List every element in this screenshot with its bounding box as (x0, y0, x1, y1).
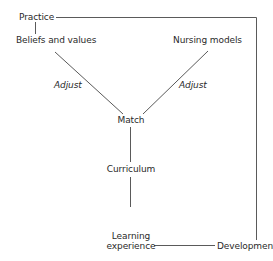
edge-label-adjust-right: Adjust (179, 80, 207, 90)
node-beliefs-and-values: Beliefs and values (16, 35, 96, 45)
node-practice: Practice (19, 12, 54, 22)
node-nursing-models: Nursing models (173, 35, 242, 45)
node-learning-experience-line1: Learning (112, 231, 150, 241)
edge-practice-development (56, 18, 257, 241)
node-match: Match (118, 115, 145, 125)
edge-label-adjust-left: Adjust (54, 80, 82, 90)
node-development: Development (217, 241, 273, 251)
node-learning-experience-line2: experience (107, 241, 156, 251)
node-curriculum: Curriculum (107, 164, 155, 174)
diagram-canvas: Practice Beliefs and values Nursing mode… (0, 0, 273, 261)
